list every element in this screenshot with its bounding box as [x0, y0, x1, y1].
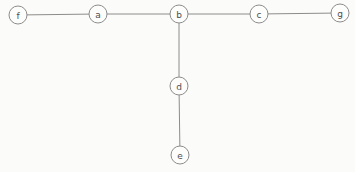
graph-diagram: fabcgde [0, 0, 355, 172]
node-label-b: b [176, 10, 182, 20]
node-label-a: a [95, 10, 101, 20]
node-label-d: d [176, 82, 182, 92]
node-label-e: e [177, 151, 183, 161]
edge-c-g [268, 13, 331, 14]
edge-f-a [27, 14, 89, 15]
node-label-g: g [337, 9, 343, 19]
node-label-c: c [257, 10, 262, 20]
edge-d-e [179, 95, 180, 146]
